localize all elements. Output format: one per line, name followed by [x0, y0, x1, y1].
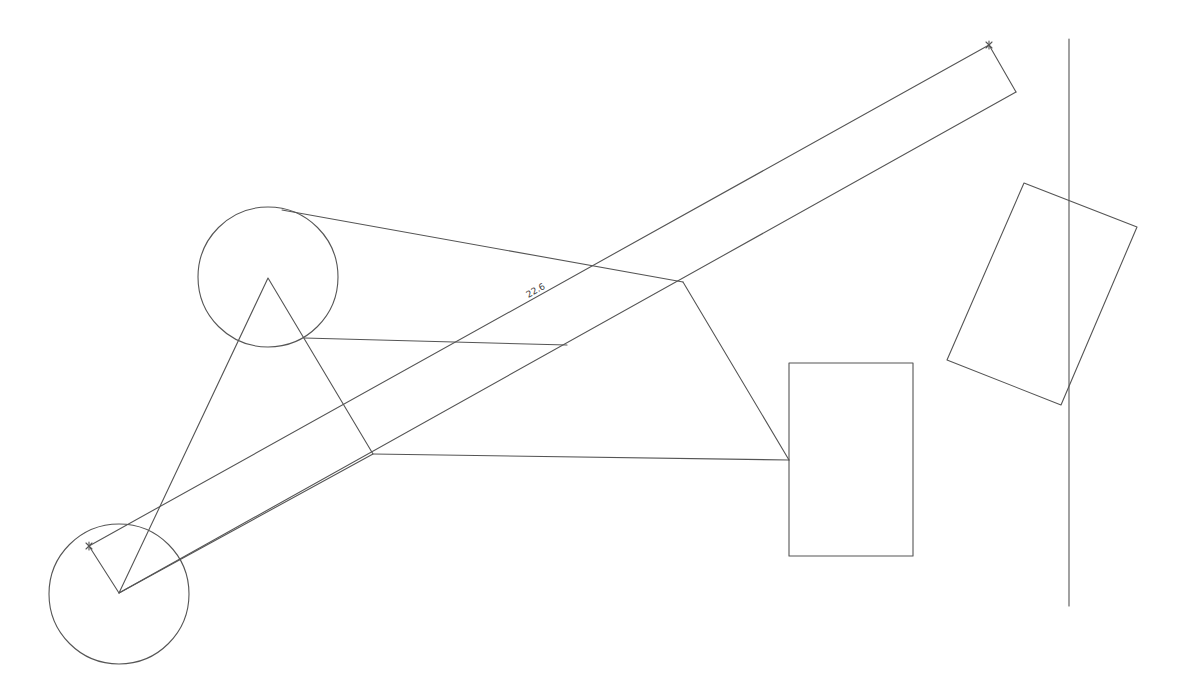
upright-rectangle[interactable]: [789, 363, 913, 556]
extension-line-left: [89, 546, 119, 593]
upper-circle[interactable]: [198, 207, 338, 347]
dimension-line: [89, 45, 989, 546]
asterisk-marker-icon: [986, 41, 992, 49]
extension-line-right: [989, 45, 1016, 92]
drawing-canvas[interactable]: 22.6: [0, 0, 1180, 693]
triangle-shape[interactable]: [119, 278, 373, 593]
link-line-upper[interactable]: [304, 338, 567, 345]
lower-circle[interactable]: [49, 524, 189, 664]
tangent-line-top[interactable]: [282, 210, 683, 282]
link-line-diagonal[interactable]: [683, 282, 789, 460]
lines-group: [282, 39, 1069, 606]
measured-edge-line: [119, 92, 1016, 593]
rotated-rectangle[interactable]: [947, 183, 1137, 405]
link-line-lower[interactable]: [373, 454, 789, 460]
dimension-annotation[interactable]: 22.6: [86, 41, 1016, 593]
asterisk-marker-icon: [86, 542, 92, 550]
